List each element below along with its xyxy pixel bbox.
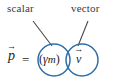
velocity-vector-arrow: → <box>74 45 83 54</box>
momentum-symbol: → p <box>8 49 15 63</box>
velocity-term-expression: → v <box>76 52 81 67</box>
scalar-term-expression: (γm) <box>39 52 60 67</box>
figure-vector-layer <box>0 0 122 79</box>
equals-sign: = <box>22 52 29 68</box>
vector-leader-line <box>78 21 88 46</box>
scalar-leader-line <box>33 21 52 46</box>
physics-equation-figure: scalar vector → p = (γm) → v <box>0 0 122 79</box>
scalar-close-paren: ) <box>56 52 60 66</box>
mass-symbol: m <box>48 53 56 65</box>
velocity-letter: v <box>76 52 81 66</box>
momentum-vector-arrow: → <box>7 42 16 51</box>
